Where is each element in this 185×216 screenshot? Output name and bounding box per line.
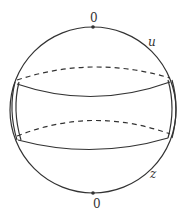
lower-band-front [18,138,168,150]
z-label: z [150,168,156,180]
upper-band-back [17,67,170,80]
left-tube-inner [16,82,21,140]
top-point [91,25,95,29]
bottom-point [91,191,95,195]
right-tube-outer [168,80,172,138]
u-label: u [148,36,156,48]
sphere-diagram [0,0,185,216]
bottom-label: 0 [93,198,101,210]
top-label: 0 [90,12,98,24]
upper-band-front [17,82,170,97]
lower-band-back [17,120,170,136]
